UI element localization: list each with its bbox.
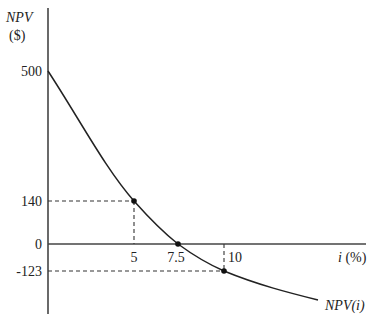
x-tick-7-5: 7.5 (167, 250, 185, 265)
x-tick-10: 10 (228, 250, 242, 265)
npv-chart: NPV ($) 500 140 0 -123 5 7.5 10 i (%) NP… (0, 0, 380, 329)
data-point-10 (221, 268, 227, 274)
npv-curve (48, 71, 318, 300)
y-axis-title-line1: NPV (5, 10, 34, 25)
x-axis-title: i (%) (338, 250, 367, 266)
data-point-7-5 (175, 241, 181, 247)
y-tick-0: 0 (35, 237, 42, 252)
y-tick-500: 500 (21, 64, 42, 79)
data-point-5 (131, 198, 137, 204)
curve-label: NPV(i) (324, 298, 365, 314)
y-axis-title-line2: ($) (9, 28, 26, 44)
x-tick-5: 5 (131, 250, 138, 265)
y-tick-140: 140 (21, 194, 42, 209)
y-tick-neg123: -123 (16, 264, 42, 279)
